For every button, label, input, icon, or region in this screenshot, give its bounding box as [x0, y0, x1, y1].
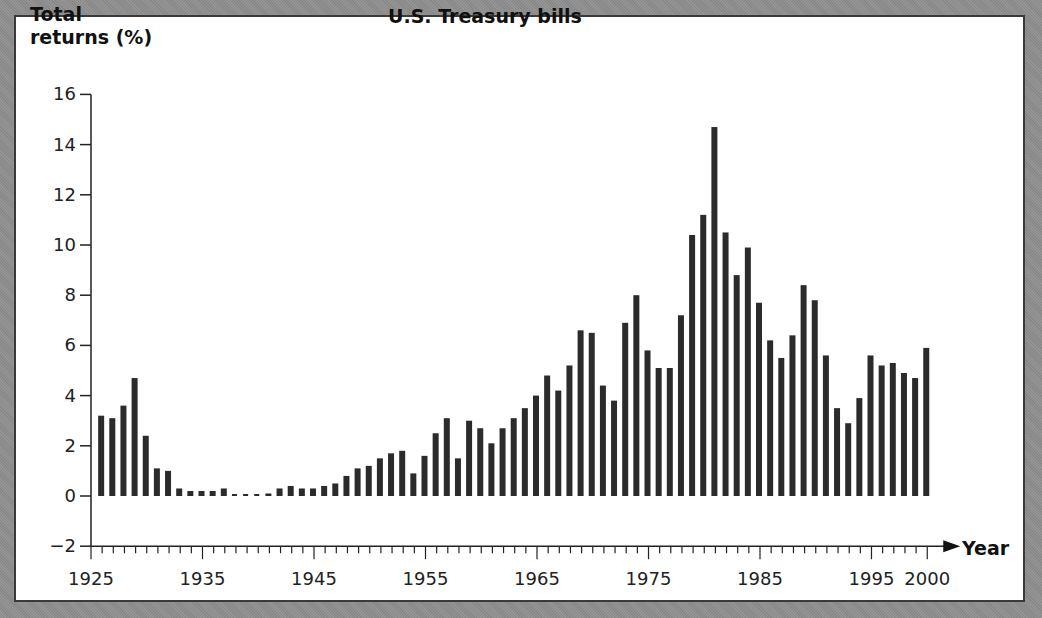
bar-1929 [132, 378, 138, 496]
bars [98, 127, 929, 496]
bar-1942 [277, 488, 283, 496]
x-tick-label: 1985 [737, 568, 783, 589]
y-tick-label: 8 [65, 284, 76, 305]
bar-1937 [221, 488, 227, 496]
y-axis: 1614121086420−2 [49, 83, 91, 556]
bar-1997 [890, 363, 896, 496]
y-tick-label: 6 [65, 334, 76, 355]
bar-1986 [767, 340, 773, 496]
x-tick-label: 1975 [626, 568, 672, 589]
bar-1963 [511, 418, 517, 496]
bar-1955 [422, 456, 428, 496]
y-tick-label: 16 [53, 83, 76, 104]
x-tick-label: 1945 [291, 568, 337, 589]
bar-1976 [656, 368, 662, 496]
bar-1935 [199, 491, 205, 496]
bar-1980 [700, 215, 706, 496]
bar-1984 [745, 248, 751, 496]
bar-1928 [120, 406, 126, 496]
plot-area: 1614121086420−2 192519351945195519651975… [0, 0, 1042, 618]
x-tick-label: 1995 [849, 568, 895, 589]
y-tick-label: 0 [65, 485, 76, 506]
bar-1965 [533, 396, 539, 496]
bar-1958 [455, 458, 461, 496]
bar-1969 [578, 330, 584, 496]
x-tick-label: 1965 [514, 568, 560, 589]
x-tick-label: 1935 [180, 568, 226, 589]
y-tick-label: 4 [65, 385, 76, 406]
bar-1970 [589, 333, 595, 496]
bar-1960 [477, 428, 483, 496]
bar-1968 [566, 365, 572, 496]
bar-1938 [232, 494, 237, 496]
bar-1983 [734, 275, 740, 496]
bar-1993 [845, 423, 851, 496]
bar-1932 [165, 471, 171, 496]
bar-2000 [923, 348, 929, 496]
x-tick-label: 2000 [904, 568, 950, 589]
y-tick-label: 12 [53, 184, 76, 205]
bar-1998 [901, 373, 907, 496]
bar-1926 [98, 416, 104, 496]
bar-1945 [310, 488, 316, 496]
bar-1985 [756, 303, 762, 496]
bar-1930 [143, 436, 149, 496]
y-tick-label: −2 [49, 535, 76, 556]
bar-1953 [399, 451, 405, 496]
y-tick-label: 2 [65, 435, 76, 456]
y-tick-label: 10 [53, 234, 76, 255]
bar-1999 [912, 378, 918, 496]
bar-1931 [154, 468, 160, 496]
bar-1995 [868, 355, 874, 496]
bar-1959 [466, 421, 472, 496]
bar-1977 [667, 368, 673, 496]
x-tick-label: 1955 [403, 568, 449, 589]
bar-1961 [488, 443, 494, 496]
bar-1991 [823, 355, 829, 496]
bar-1954 [410, 473, 416, 496]
bar-1981 [711, 127, 717, 496]
bar-1975 [645, 350, 651, 496]
bar-1971 [600, 386, 606, 496]
bar-1974 [633, 295, 639, 496]
bar-1987 [778, 358, 784, 496]
bar-1967 [555, 391, 561, 496]
x-tick-label: 1925 [68, 568, 114, 589]
x-axis: 192519351945195519651975198519952000 [68, 540, 960, 589]
bar-1940 [254, 494, 259, 496]
bar-1972 [611, 401, 617, 496]
bar-1996 [879, 365, 885, 496]
bar-1933 [176, 488, 182, 496]
bar-1936 [210, 491, 216, 496]
bar-1994 [856, 398, 862, 496]
bar-1978 [678, 315, 684, 496]
y-tick-label: 14 [53, 134, 76, 155]
bar-1927 [109, 418, 115, 496]
bar-1934 [187, 491, 193, 496]
bar-1982 [723, 232, 729, 496]
bar-1952 [388, 453, 394, 496]
bar-1964 [522, 408, 528, 496]
bar-1966 [544, 376, 550, 496]
x-axis-arrow-icon [943, 540, 960, 552]
bar-1979 [689, 235, 695, 496]
bar-1951 [377, 458, 383, 496]
bar-1992 [834, 408, 840, 496]
bar-1939 [243, 494, 248, 496]
bar-1944 [299, 488, 305, 496]
bar-1957 [444, 418, 450, 496]
bar-1962 [500, 428, 506, 496]
bar-1990 [812, 300, 818, 496]
bar-1948 [343, 476, 349, 496]
bar-1946 [321, 486, 327, 496]
bar-1949 [355, 468, 361, 496]
bar-1941 [265, 493, 271, 496]
bar-1943 [288, 486, 294, 496]
bar-1956 [433, 433, 439, 496]
bar-1947 [332, 483, 338, 496]
bar-1988 [789, 335, 795, 496]
bar-1973 [622, 323, 628, 496]
bar-1950 [366, 466, 372, 496]
bar-1989 [801, 285, 807, 496]
